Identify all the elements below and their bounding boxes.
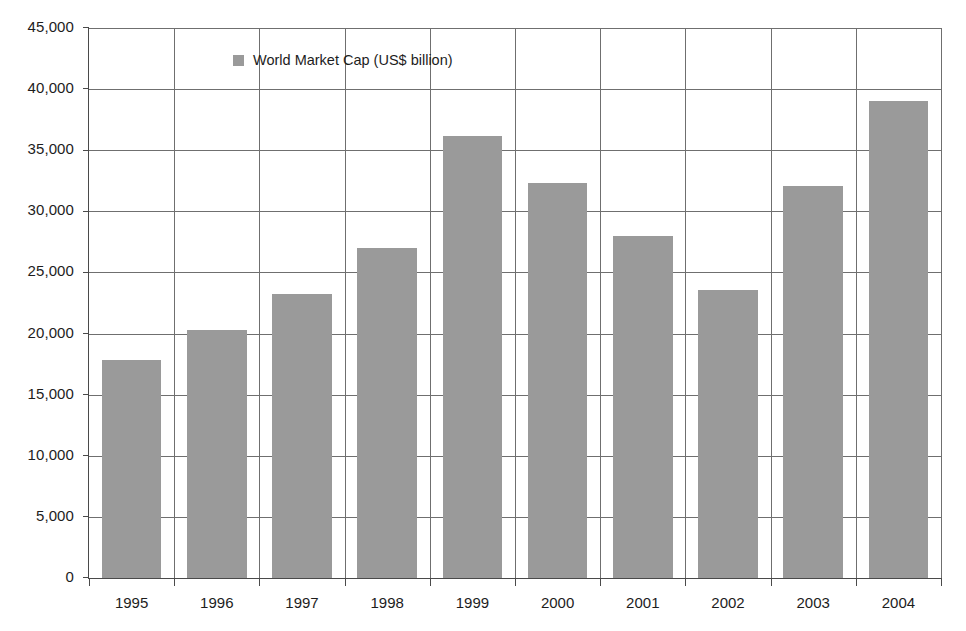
bar: [357, 248, 417, 578]
gridline-vertical: [685, 28, 686, 578]
bar: [443, 136, 503, 578]
gridline-vertical: [771, 28, 772, 578]
bar: [528, 183, 588, 578]
plot-right-edge: [941, 28, 942, 578]
bar: [698, 290, 758, 578]
plot-area: 1995199619971998199920002001200220032004…: [88, 28, 941, 579]
x-axis-tick-label: 2004: [848, 594, 948, 611]
y-axis-tick: [83, 27, 89, 28]
legend-swatch-icon: [233, 55, 244, 66]
y-axis-tick-label: 40,000: [8, 79, 74, 96]
y-axis-tick: [83, 272, 89, 273]
gridline-vertical: [430, 28, 431, 578]
x-axis-tick: [259, 578, 260, 586]
bar: [613, 236, 673, 578]
legend-label: World Market Cap (US$ billion): [253, 52, 453, 68]
gridline-vertical: [345, 28, 346, 578]
bar: [783, 186, 843, 578]
gridline-vertical: [259, 28, 260, 578]
gridline-vertical: [174, 28, 175, 578]
x-axis-tick: [685, 578, 686, 586]
gridline-vertical: [515, 28, 516, 578]
x-axis-tick: [856, 578, 857, 586]
y-axis-tick-label: 10,000: [8, 446, 74, 463]
gridline-vertical: [856, 28, 857, 578]
x-axis-tick: [345, 578, 346, 586]
x-axis-tick: [430, 578, 431, 586]
x-axis-tick: [515, 578, 516, 586]
x-axis-tick: [771, 578, 772, 586]
y-axis-tick-label: 20,000: [8, 324, 74, 341]
y-axis-tick: [83, 455, 89, 456]
y-axis-tick: [83, 211, 89, 212]
y-axis-tick: [83, 516, 89, 517]
y-axis-tick: [83, 88, 89, 89]
bar: [272, 294, 332, 578]
y-axis-tick: [83, 333, 89, 334]
bar: [102, 360, 162, 578]
gridline-vertical: [600, 28, 601, 578]
bar-chart: 45,00040,00035,00030,00025,00020,00015,0…: [0, 0, 966, 631]
y-axis-tick: [83, 150, 89, 151]
y-axis-tick-label: 30,000: [8, 201, 74, 218]
x-axis-tick: [941, 578, 942, 586]
y-axis-tick-label: 45,000: [8, 18, 74, 35]
bar: [869, 101, 929, 578]
x-axis-tick: [174, 578, 175, 586]
x-axis-tick: [600, 578, 601, 586]
x-axis-tick: [89, 578, 90, 586]
bar: [187, 330, 247, 578]
y-axis-tick-label: 5,000: [8, 507, 74, 524]
y-axis-tick: [83, 394, 89, 395]
y-axis-tick-label: 15,000: [8, 385, 74, 402]
chart-legend: World Market Cap (US$ billion): [233, 52, 453, 68]
y-axis-tick-label: 0: [8, 568, 74, 585]
y-axis-tick-label: 35,000: [8, 140, 74, 157]
y-axis-tick-label: 25,000: [8, 262, 74, 279]
